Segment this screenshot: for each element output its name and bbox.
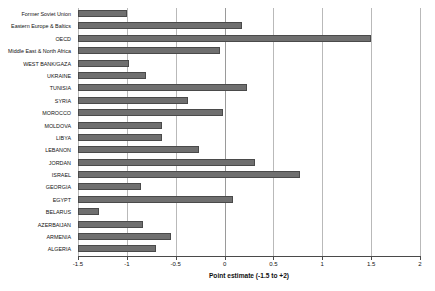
figure-panel: Former Soviet UnionEastern Europe & Balt…	[0, 0, 435, 291]
bar-rows	[78, 8, 420, 256]
bar	[78, 10, 127, 17]
category-label: OECD	[0, 33, 74, 45]
x-tick	[78, 256, 79, 260]
bar-row	[78, 157, 420, 169]
bar	[78, 84, 247, 91]
bar-row	[78, 33, 420, 45]
bar-row	[78, 20, 420, 32]
category-label: Eastern Europe & Baltics	[0, 20, 74, 32]
gridline-2	[420, 8, 421, 256]
x-tick	[127, 256, 128, 260]
category-label: MOLDOVA	[0, 120, 74, 132]
x-tick-label: 1.5	[367, 261, 375, 267]
bar-row	[78, 95, 420, 107]
bar-row	[78, 45, 420, 57]
bar	[78, 72, 146, 79]
bar-row	[78, 219, 420, 231]
x-axis-line	[78, 256, 420, 257]
bar-row	[78, 58, 420, 70]
bar	[78, 146, 199, 153]
x-tick	[322, 256, 323, 260]
x-tick-label: 2	[418, 261, 421, 267]
category-label: ALGERIA	[0, 243, 74, 255]
bar-row	[78, 169, 420, 181]
bar	[78, 109, 223, 116]
category-label: LIBYA	[0, 132, 74, 144]
bar	[78, 245, 156, 252]
x-axis-title: Point estimate (-1.5 to +2)	[78, 272, 420, 279]
x-tick-label: 0	[223, 261, 226, 267]
x-tick-label: -0.5	[171, 261, 181, 267]
x-tick-label: -1.5	[73, 261, 83, 267]
category-label: GEORGIA	[0, 181, 74, 193]
category-label: LEBANON	[0, 144, 74, 156]
bar	[78, 47, 220, 54]
x-tick	[176, 256, 177, 260]
bar	[78, 22, 242, 29]
bar	[78, 183, 141, 190]
bar-row	[78, 194, 420, 206]
bar-row	[78, 206, 420, 218]
bar	[78, 35, 371, 42]
bar-row	[78, 82, 420, 94]
plot-area	[78, 8, 420, 256]
bar	[78, 134, 162, 141]
category-label: Middle East & North Africa	[0, 45, 74, 57]
bar-row	[78, 8, 420, 20]
category-label: AZERBAIJAN	[0, 219, 74, 231]
category-label: ARMENIA	[0, 231, 74, 243]
bar	[78, 171, 300, 178]
bar	[78, 159, 255, 166]
x-tick	[420, 256, 421, 260]
bar-row	[78, 231, 420, 243]
bar	[78, 196, 233, 203]
category-label: UKRAINE	[0, 70, 74, 82]
bar-row	[78, 70, 420, 82]
bar-row	[78, 144, 420, 156]
bar	[78, 233, 171, 240]
x-tick	[371, 256, 372, 260]
category-label: JORDAN	[0, 157, 74, 169]
x-tick-label: 1	[321, 261, 324, 267]
category-label: ISRAEL	[0, 169, 74, 181]
x-tick	[273, 256, 274, 260]
x-tick	[225, 256, 226, 260]
category-label: MOROCCO	[0, 107, 74, 119]
category-label: SYRIA	[0, 95, 74, 107]
bar-row	[78, 132, 420, 144]
bar-row	[78, 181, 420, 193]
bar-row	[78, 120, 420, 132]
category-label: BELARUS	[0, 206, 74, 218]
bar	[78, 208, 99, 215]
bar	[78, 97, 188, 104]
bar	[78, 122, 162, 129]
x-tick-label: 0.5	[269, 261, 277, 267]
bar	[78, 221, 143, 228]
category-label: TUNISIA	[0, 82, 74, 94]
category-label: WEST BANK/GAZA	[0, 58, 74, 70]
figure-caption	[22, 285, 422, 291]
category-label: EGYPT	[0, 194, 74, 206]
bar-row	[78, 243, 420, 255]
x-tick-label: -1	[124, 261, 129, 267]
bar-row	[78, 107, 420, 119]
category-axis-labels: Former Soviet UnionEastern Europe & Balt…	[0, 8, 74, 256]
category-label: Former Soviet Union	[0, 8, 74, 20]
bar	[78, 60, 129, 67]
